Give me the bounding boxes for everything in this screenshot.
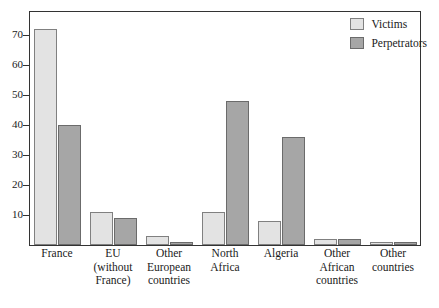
x-axis-labels: FranceEU(withoutFrance)OtherEuropeancoun…: [29, 247, 421, 308]
bar-victims: [314, 239, 337, 245]
x-axis-category-label: Othercountries: [353, 247, 433, 274]
bar-perpetrators: [58, 125, 81, 245]
bar-perpetrators: [114, 218, 137, 245]
y-axis-tick-label: 60: [1, 59, 23, 70]
bar-perpetrators: [282, 137, 305, 245]
y-axis-labels: 10203040506070: [0, 0, 23, 308]
y-axis-tick-label: 20: [1, 179, 23, 190]
x-axis-label-line: Other: [353, 247, 433, 261]
legend-item-perpetrators[interactable]: Perpetrators: [350, 37, 427, 49]
bar-victims: [202, 212, 225, 245]
x-axis-label-line: countries: [129, 274, 209, 288]
bar-victims: [146, 236, 169, 245]
bar-chart: 10203040506070 FranceEU(withoutFrance)Ot…: [0, 0, 439, 308]
legend-item-label: Victims: [371, 18, 407, 30]
bar-perpetrators: [338, 239, 361, 245]
x-axis-label-line: countries: [353, 261, 433, 275]
legend-swatch-icon: [350, 37, 364, 49]
x-axis-label-line: countries: [297, 274, 377, 288]
legend-item-label: Perpetrators: [371, 37, 427, 49]
bar-victims: [258, 221, 281, 245]
legend-item-victims[interactable]: Victims: [350, 18, 427, 30]
x-axis-label-line: Africa: [185, 261, 265, 275]
y-axis-tick-label: 50: [1, 89, 23, 100]
y-axis-tick-label: 40: [1, 119, 23, 130]
bar-victims: [370, 242, 393, 245]
bar-perpetrators: [394, 242, 417, 245]
bar-perpetrators: [226, 101, 249, 245]
legend-swatch-icon: [350, 18, 364, 30]
y-axis-tick-label: 30: [1, 149, 23, 160]
y-axis-tick-label: 10: [1, 209, 23, 220]
y-axis-tick-label: 70: [1, 29, 23, 40]
bar-victims: [90, 212, 113, 245]
bar-victims: [34, 29, 57, 245]
bar-perpetrators: [170, 242, 193, 245]
chart-legend: VictimsPerpetrators: [350, 18, 427, 49]
